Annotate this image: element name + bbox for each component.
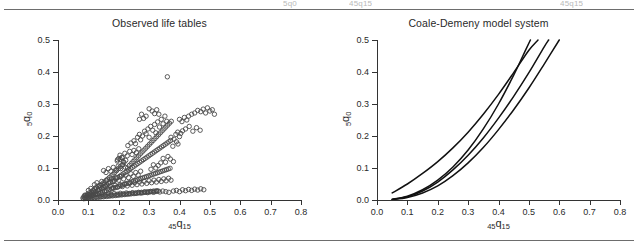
x-tick-right [377, 200, 378, 205]
y-axis-title-left-prefix: 5 [25, 122, 34, 126]
y-axis-title-left-suffix: 0 [25, 112, 34, 116]
x-tick-label-right: 0.2 [431, 207, 444, 217]
x-tick-left [240, 200, 241, 205]
scatter-point [165, 75, 169, 79]
scatter-point [159, 117, 163, 121]
y-tick-label-right: 0.5 [356, 35, 369, 45]
x-tick-left [149, 200, 150, 205]
scatter-point [139, 112, 143, 116]
x-tick-left [180, 200, 181, 205]
ghost-header-3: 45q15 [560, 0, 583, 9]
y-tick-left [53, 168, 58, 169]
scatter-point [147, 107, 151, 111]
scatter-point [155, 108, 159, 112]
y-tick-label-left: 0.4 [37, 67, 50, 77]
y-tick-label-left: 0.3 [37, 99, 50, 109]
y-tick-label-left: 0.0 [37, 195, 50, 205]
x-axis-title-right-suffix: 15 [502, 222, 510, 231]
scatter-point [147, 135, 151, 139]
x-tick-right [620, 200, 621, 205]
scatter-point [157, 125, 161, 129]
y-tick-left [53, 104, 58, 105]
x-tick-left [58, 200, 59, 205]
scatter-point [161, 156, 165, 160]
x-tick-label-left: 0.0 [52, 207, 65, 217]
x-tick-label-right: 0.4 [492, 207, 505, 217]
plot-area-model: 0.00.10.20.30.40.50.00.10.20.30.40.50.60… [377, 40, 620, 200]
x-tick-left [271, 200, 272, 205]
x-tick-label-right: 0.0 [371, 207, 384, 217]
x-tick-right [499, 200, 500, 205]
y-tick-right [372, 136, 377, 137]
x-tick-right [559, 200, 560, 205]
x-tick-label-right: 0.3 [462, 207, 475, 217]
y-tick-right [372, 104, 377, 105]
x-tick-label-right: 0.1 [401, 207, 414, 217]
scatter-point [191, 129, 195, 133]
scatter-point [171, 159, 175, 163]
scatter-series-observed [58, 40, 301, 200]
scatter-point [203, 111, 207, 115]
x-axis-title-right: 45q15 [377, 217, 620, 231]
y-tick-right [372, 168, 377, 169]
x-tick-label-left: 0.6 [234, 207, 247, 217]
scatter-point [157, 112, 161, 116]
x-tick-label-left: 0.5 [204, 207, 217, 217]
y-axis-line-left [58, 40, 59, 200]
x-tick-label-left: 0.2 [112, 207, 125, 217]
y-axis-title-right-suffix: 0 [344, 112, 353, 116]
x-tick-left [301, 200, 302, 205]
y-axis-title-left: 5q0 [20, 112, 34, 126]
figure-root: 5q0 45q15 45q15 Observed life tables 5q0… [0, 0, 638, 252]
ghost-header-2: 45q15 [349, 0, 372, 9]
y-tick-label-left: 0.5 [37, 35, 50, 45]
y-tick-right [372, 72, 377, 73]
y-axis-title-right: 5q0 [339, 112, 353, 126]
page-rule-bottom [4, 240, 634, 241]
x-axis-title-left-suffix: 15 [183, 222, 191, 231]
y-axis-line-right [377, 40, 378, 200]
scatter-point [127, 149, 131, 153]
model-curve [392, 40, 530, 199]
y-tick-label-right: 0.2 [356, 131, 369, 141]
y-tick-left [53, 40, 58, 41]
scatter-point [129, 141, 133, 145]
scatter-point [137, 147, 141, 151]
y-axis-title-right-main: q [339, 116, 351, 122]
y-tick-left [53, 72, 58, 73]
x-tick-left [88, 200, 89, 205]
scatter-point [198, 128, 202, 132]
panel-coale-demeny: Coale-Demeny model system 5q0 0.00.10.20… [319, 12, 638, 240]
x-tick-label-right: 0.7 [583, 207, 596, 217]
y-tick-label-right: 0.0 [356, 195, 369, 205]
x-axis-title-left: 45q15 [58, 217, 301, 231]
scatter-point [167, 190, 171, 194]
x-tick-label-left: 0.1 [82, 207, 95, 217]
plot-area-observed: 0.00.10.20.30.40.50.00.10.20.30.40.50.60… [58, 40, 301, 200]
x-tick-right [407, 200, 408, 205]
x-tick-label-left: 0.8 [295, 207, 308, 217]
panel-observed-life-tables: Observed life tables 5q0 0.00.10.20.30.4… [0, 12, 319, 240]
x-tick-label-left: 0.4 [173, 207, 186, 217]
line-series-model [377, 40, 620, 200]
y-tick-label-left: 0.2 [37, 131, 50, 141]
y-axis-title-left-main: q [20, 116, 32, 122]
scatter-point [171, 144, 175, 148]
x-tick-right [438, 200, 439, 205]
y-tick-label-right: 0.3 [356, 99, 369, 109]
y-tick-label-right: 0.4 [356, 67, 369, 77]
y-tick-right [372, 40, 377, 41]
y-tick-label-left: 0.1 [37, 163, 50, 173]
scatter-point [163, 114, 167, 118]
model-curve [392, 40, 538, 193]
scatter-point [138, 169, 142, 173]
panel-title-model: Coale-Demeny model system [319, 17, 638, 29]
scatter-point [137, 117, 141, 121]
x-tick-left [210, 200, 211, 205]
y-tick-left [53, 136, 58, 137]
x-tick-label-right: 0.8 [614, 207, 627, 217]
x-tick-right [529, 200, 530, 205]
scatter-point [151, 163, 155, 167]
x-tick-label-right: 0.5 [523, 207, 536, 217]
x-tick-left [119, 200, 120, 205]
